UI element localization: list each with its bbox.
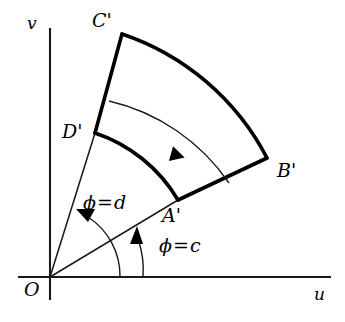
region-side-D-C (95, 34, 122, 133)
origin-label: O (24, 280, 40, 299)
u-axis-label: u (314, 286, 325, 303)
angle-arc-phi-d (88, 217, 120, 277)
vertex-label-c-prime: C' (92, 11, 112, 30)
diagram-canvas: v u O A' B' C' D' ϕ=c ϕ=d (0, 0, 345, 322)
angle-arc-phi-c-arrowhead (130, 226, 143, 244)
equals-sign-c: = (172, 234, 190, 256)
region-outer-arc-B-C (122, 34, 267, 158)
phi-symbol-c: ϕ (159, 234, 172, 256)
region-orientation-arrowhead (165, 144, 184, 162)
region-orientation-arrow (109, 101, 229, 183)
region-inner-arc-A-D (95, 133, 178, 200)
angle-value-d: d (114, 191, 126, 213)
angle-value-c: c (190, 234, 201, 256)
angle-label-phi-equals-d: ϕ=d (83, 193, 126, 212)
angle-arc-phi-c (138, 239, 143, 277)
phi-symbol-d: ϕ (83, 191, 96, 213)
vertex-label-d-prime: D' (62, 122, 82, 141)
equals-sign-d: = (96, 191, 114, 213)
vertex-label-a-prime: A' (162, 206, 181, 225)
v-axis-label: v (27, 15, 37, 32)
vertex-label-b-prime: B' (277, 161, 296, 180)
region-side-A-B (178, 158, 267, 200)
angle-label-phi-equals-c: ϕ=c (159, 236, 201, 255)
